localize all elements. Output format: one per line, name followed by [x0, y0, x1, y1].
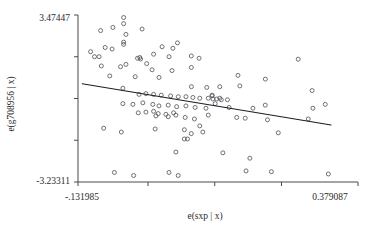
data-point: [189, 65, 193, 69]
data-point: [121, 102, 125, 106]
data-point: [204, 106, 208, 110]
data-point: [121, 86, 125, 90]
data-point: [102, 126, 106, 130]
y-axis-min-label: -3.23311: [36, 176, 70, 186]
data-point: [169, 94, 173, 98]
y-axis-max-label: 3.47447: [39, 13, 70, 23]
data-point: [110, 47, 114, 51]
data-point: [156, 112, 160, 116]
data-point: [136, 111, 140, 115]
data-point: [263, 77, 267, 81]
chart-canvas: e(g708956 | x) 3.47447 -3.23311 -.131985…: [0, 0, 368, 230]
data-point: [152, 52, 156, 56]
data-point: [276, 131, 280, 135]
data-point: [235, 115, 239, 119]
data-point: [131, 102, 135, 106]
x-axis-max-label: 0.379087: [312, 192, 348, 202]
data-point: [157, 104, 161, 108]
data-point: [176, 95, 180, 99]
x-axis-ticks: [78, 182, 358, 186]
data-point: [154, 114, 158, 118]
data-point: [151, 102, 155, 106]
data-point: [97, 55, 101, 59]
y-axis-title: e(g708956 | x): [6, 76, 17, 131]
data-point: [160, 45, 164, 49]
data-point: [183, 115, 187, 119]
data-point: [323, 102, 327, 106]
data-point: [152, 109, 156, 113]
data-point: [296, 57, 300, 61]
data-point: [189, 54, 193, 58]
data-point: [243, 116, 247, 120]
data-point: [182, 128, 186, 132]
data-point: [174, 113, 178, 117]
data-point: [145, 62, 149, 66]
data-point: [164, 112, 168, 116]
data-point: [144, 110, 148, 114]
data-point: [89, 50, 93, 54]
data-point: [166, 115, 170, 119]
y-axis-ticks: [74, 15, 78, 182]
data-point: [266, 118, 270, 122]
data-point: [269, 170, 273, 174]
data-point: [170, 69, 174, 73]
data-point: [122, 22, 126, 26]
data-point: [218, 85, 222, 89]
scatter-points-layer: [89, 16, 331, 178]
data-point: [206, 96, 210, 100]
data-point: [184, 104, 188, 108]
data-point: [167, 55, 171, 59]
data-point: [171, 46, 175, 50]
data-point: [150, 68, 154, 72]
data-point: [205, 85, 209, 89]
data-point: [225, 98, 229, 102]
data-point: [176, 174, 180, 178]
data-point: [141, 101, 145, 105]
data-point: [175, 105, 179, 109]
data-point: [132, 174, 136, 178]
data-point: [310, 89, 314, 93]
data-point: [191, 95, 195, 99]
data-point: [244, 169, 248, 173]
x-axis-min-label: -.131985: [65, 192, 99, 202]
data-point: [251, 106, 255, 110]
data-point: [99, 29, 103, 33]
data-point: [326, 172, 330, 176]
data-point: [92, 55, 96, 59]
data-point: [174, 150, 178, 154]
data-point: [167, 170, 171, 174]
data-point: [140, 27, 144, 31]
data-point: [201, 130, 205, 134]
data-point: [193, 105, 197, 109]
data-point: [124, 62, 128, 66]
data-point: [166, 103, 170, 107]
data-point: [197, 56, 201, 60]
data-point: [263, 103, 267, 107]
data-point: [122, 16, 126, 20]
data-point: [108, 74, 112, 78]
data-point: [153, 127, 157, 131]
data-point: [189, 85, 193, 89]
data-point: [172, 111, 176, 115]
data-point: [119, 65, 123, 69]
data-point: [175, 41, 179, 45]
x-axis-title: e(sxp | x): [187, 211, 222, 222]
data-point: [248, 156, 252, 160]
data-point: [119, 130, 123, 134]
data-point: [184, 95, 188, 99]
data-point: [238, 84, 242, 88]
data-point: [99, 64, 103, 68]
data-point: [198, 96, 202, 100]
data-point: [112, 170, 116, 174]
data-point: [192, 117, 196, 121]
scatter-plot-figure: e(g708956 | x) 3.47447 -3.23311 -.131985…: [0, 0, 368, 230]
data-point: [133, 75, 137, 79]
data-point: [111, 26, 115, 30]
data-point: [157, 75, 161, 79]
data-point: [221, 151, 225, 155]
data-point: [124, 32, 128, 36]
data-point: [189, 132, 193, 136]
data-point: [236, 73, 240, 77]
data-point: [311, 106, 315, 110]
data-point: [103, 45, 107, 49]
